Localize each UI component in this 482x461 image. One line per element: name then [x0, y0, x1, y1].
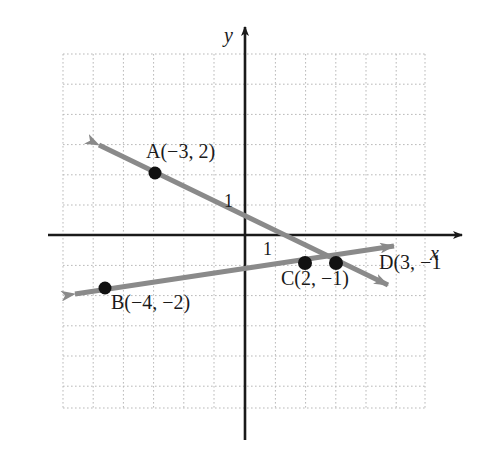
- point-label-b: B(−4, −2): [111, 292, 190, 312]
- x-axis-tick-label-1: 1: [263, 240, 272, 258]
- coordinate-plane-figure: x y 1 1 A(−3, 2) B(−4, −2) C(2, −1) D(3,…: [0, 0, 482, 461]
- point-label-c: C(2, −1): [281, 268, 349, 288]
- line-AC: [99, 145, 388, 285]
- y-axis-tick-label-1: 1: [224, 192, 233, 210]
- point-label-d: D(3, −1: [379, 252, 441, 272]
- y-axis-label: y: [224, 25, 233, 45]
- plot-canvas: [0, 0, 482, 461]
- point-label-a: A(−3, 2): [146, 141, 215, 161]
- point-a: [149, 167, 162, 180]
- point-b: [99, 282, 112, 295]
